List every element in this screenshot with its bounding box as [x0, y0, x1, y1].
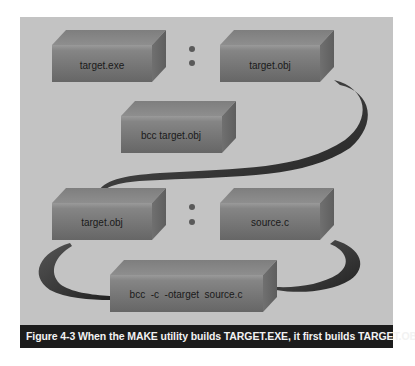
dependency-arrow-2-right — [276, 240, 360, 292]
dependency-arrow-2-left — [39, 243, 110, 300]
box-bcc-compile: bcc -c -otarget source.c — [110, 260, 277, 312]
box-bcc-target-obj: bcc target.obj — [121, 101, 236, 153]
box-label: target.obj — [249, 60, 291, 71]
box-label: target.exe — [80, 60, 125, 71]
box-target-obj-1: target.obj — [220, 30, 334, 82]
box-source-c: source.c — [220, 188, 334, 240]
colon-separator-2 — [189, 204, 195, 225]
box-target-exe: target.exe — [52, 30, 166, 82]
box-label: bcc -c -otarget source.c — [130, 289, 243, 300]
box-target-obj-2: target.obj — [52, 188, 166, 240]
box-label: source.c — [251, 217, 289, 228]
box-label: target.obj — [81, 217, 123, 228]
figure-caption: Figure 4-3 When the MAKE utility builds … — [20, 325, 393, 348]
box-label: bcc target.obj — [141, 130, 201, 141]
colon-separator-1 — [189, 46, 195, 66]
make-dependency-diagram: target.exe target.obj bcc target.obj tar… — [0, 0, 415, 366]
